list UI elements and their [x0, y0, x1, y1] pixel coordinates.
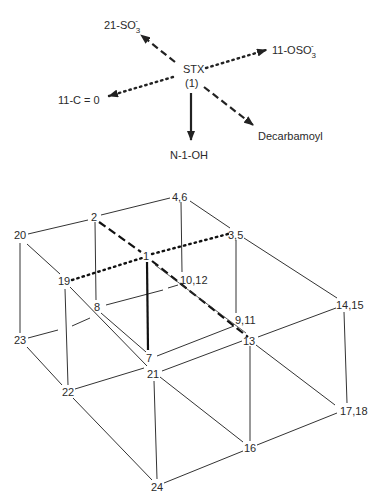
edge-14_15-17_18: [344, 312, 347, 403]
center-sublabel: (1): [185, 77, 198, 89]
edge-2-8: [95, 222, 96, 300]
node-8: 8: [94, 301, 100, 313]
edge-4_6-3_5: [190, 201, 230, 228]
edge-2-4_6: [101, 198, 170, 215]
edge-19-22: [65, 289, 68, 385]
edge-4_6-10_12: [181, 202, 182, 272]
node-23: 23: [14, 334, 26, 346]
edge-1-3_5-dotted: [152, 234, 228, 254]
svg-text:21-SO3-: 21-SO3-: [104, 16, 141, 35]
edge-21-16: [160, 377, 243, 442]
arrow-11-osulfo: [206, 50, 266, 68]
node-2: 2: [91, 211, 97, 223]
node-22: 22: [62, 386, 74, 398]
node-10_12: 10,12: [180, 274, 208, 286]
center-label-stx: STX: [183, 63, 205, 75]
edge-23-8b: [72, 318, 90, 326]
edge-21-24: [154, 381, 157, 479]
edge-22-24: [73, 398, 152, 480]
edge-23-22: [27, 347, 62, 385]
edge-8-7: [101, 313, 146, 352]
svg-text:11-OSO3-: 11-OSO3-: [272, 41, 317, 60]
edge-16-17_18: [257, 413, 337, 445]
stx-derivative-diagram: STX (1) 21-SO3- 11-OSO3- 11-C = 0 Decarb…: [0, 0, 390, 501]
edge-13-14_15: [258, 308, 336, 337]
edge-8-10_12: [106, 290, 163, 305]
edge-7-9_11: [157, 326, 234, 356]
arrow-11-keto: [109, 77, 173, 96]
node-21: 21: [147, 368, 159, 380]
node-9_11: 9,11: [235, 314, 256, 326]
edge-20-2: [28, 220, 88, 234]
node-14_15: 14,15: [336, 299, 364, 311]
label-decarbamoyl: Decarbamoyl: [258, 130, 323, 142]
edge-8-10_12b: [168, 285, 178, 288]
edge-22-21: [75, 368, 144, 389]
node-24: 24: [151, 481, 163, 493]
node-19: 19: [58, 275, 70, 287]
edge-24-16: [164, 451, 243, 483]
node-16: 16: [244, 442, 256, 454]
edge-23-8a: [28, 330, 58, 338]
edge-19-21: [70, 287, 147, 366]
node-4_6: 4,6: [172, 191, 187, 203]
edge-21-13: [162, 341, 242, 371]
label-n1-hydroxy: N-1-OH: [170, 149, 208, 161]
pathway-diagram: STX (1) 21-SO3- 11-OSO3- 11-C = 0 Decarb…: [58, 16, 323, 161]
edge-2-1-dashed: [99, 222, 141, 252]
arrow-decarbamoyl: [204, 87, 253, 125]
node-1: 1: [143, 250, 149, 262]
node-17_18: 17,18: [340, 405, 368, 417]
edge-1-7-bold: [147, 262, 148, 350]
node-3_5: 3,5: [228, 229, 243, 241]
edge-13-17_18: [256, 345, 335, 405]
label-11-keto: 11-C = 0: [58, 94, 100, 106]
node-7: 7: [146, 352, 152, 364]
label-21-sulfo: 21-SO3-: [104, 16, 141, 35]
edge-19-1-dotted: [72, 258, 142, 280]
lattice-edges: [20, 198, 347, 483]
arrow-21-sulfo: [141, 35, 175, 62]
node-13: 13: [243, 335, 255, 347]
edge-20-19: [27, 244, 60, 274]
edge-3_5-14_15: [244, 238, 337, 298]
node-20: 20: [14, 229, 26, 241]
label-11-osulfo: 11-OSO3-: [272, 41, 317, 60]
